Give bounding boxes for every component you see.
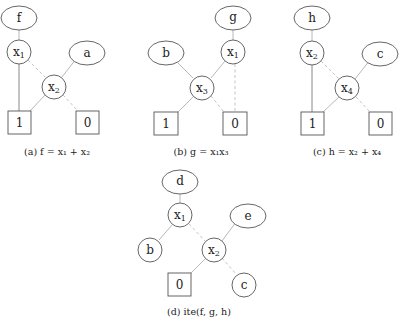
edge-x2-x4-dashed bbox=[321, 61, 339, 79]
panel-d: d x1 e b x2 0 c (d) ite(f, g, h) bbox=[138, 170, 266, 317]
edge-x1-b bbox=[159, 225, 172, 240]
edge-x2-c-dashed bbox=[222, 258, 236, 274]
terminal-zero-label: 0 bbox=[231, 117, 239, 131]
terminal-one-label: 1 bbox=[162, 117, 170, 131]
node-a-label: a bbox=[83, 46, 90, 60]
node-b-label: b bbox=[146, 243, 154, 257]
node-c-label: c bbox=[241, 278, 248, 292]
panel-c: h x2 c x4 1 0 (c) h = x₂ + x₄ bbox=[294, 6, 398, 157]
terminal-zero-label: 0 bbox=[176, 278, 184, 292]
terminal-one-label: 1 bbox=[309, 117, 317, 131]
node-g-label: g bbox=[229, 10, 237, 24]
terminal-zero-label: 0 bbox=[377, 117, 385, 131]
edge-x4-zero-dashed bbox=[356, 97, 370, 112]
node-e-label: e bbox=[244, 209, 251, 223]
node-h-label: h bbox=[308, 11, 316, 25]
edge-x3-one bbox=[178, 96, 194, 112]
edge-e-x2 bbox=[222, 222, 236, 241]
edge-x1-x3 bbox=[211, 61, 225, 78]
edge-x2-zero-dashed bbox=[63, 95, 78, 111]
edge-x2-one bbox=[30, 95, 45, 111]
edge-x1-x2-dashed bbox=[28, 60, 45, 77]
caption-a: (a) f = x₁ + x₂ bbox=[24, 146, 90, 157]
terminal-zero-label: 0 bbox=[84, 116, 92, 130]
panel-b: g b x1 x3 1 0 (b) g = x₁x₃ bbox=[148, 6, 251, 157]
caption-c: (c) h = x₂ + x₄ bbox=[313, 146, 381, 157]
node-b-label: b bbox=[162, 46, 170, 60]
edge-b-x3 bbox=[178, 63, 193, 78]
edge-x3-zero-dashed bbox=[211, 96, 224, 112]
panel-a: f x1 a x2 1 0 (a) f = x₁ + x₂ bbox=[1, 6, 105, 157]
bdd-figure: f x1 a x2 1 0 (a) f = x₁ + x₂ g b x1 x3 … bbox=[0, 0, 403, 323]
edge-x1-x2-dashed bbox=[189, 224, 205, 241]
caption-b: (b) g = x₁x₃ bbox=[174, 146, 229, 157]
edge-x4-one bbox=[323, 97, 339, 112]
node-c-label: c bbox=[377, 47, 384, 61]
terminal-one-label: 1 bbox=[16, 116, 24, 130]
edge-x2-zero bbox=[191, 258, 206, 273]
caption-d: (d) ite(f, g, h) bbox=[167, 306, 231, 317]
node-d-label: d bbox=[176, 174, 184, 188]
